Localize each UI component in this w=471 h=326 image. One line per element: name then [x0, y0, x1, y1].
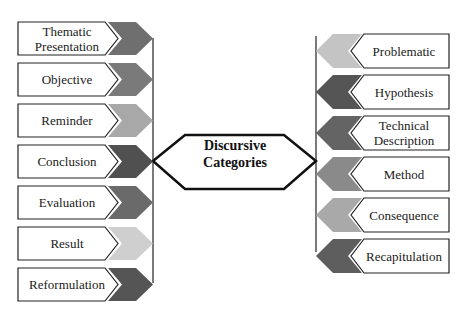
- left-item-objective: Objective: [19, 63, 115, 96]
- left-item-result: Result: [19, 227, 115, 260]
- left-item-evaluation: Evaluation: [19, 186, 115, 219]
- right-item-problematic: Problematic: [358, 34, 450, 68]
- center-label-line1: Discursive: [204, 138, 266, 153]
- left-item-reminder: Reminder: [19, 104, 115, 137]
- right-shapes: [316, 34, 449, 273]
- left-item-reformulation: Reformulation: [19, 268, 115, 301]
- right-item-technical-description: TechnicalDescription: [358, 116, 450, 150]
- right-item-hypothesis: Hypothesis: [358, 75, 450, 109]
- right-item-method: Method: [358, 157, 450, 191]
- right-item-recapitulation: Recapitulation: [358, 239, 450, 273]
- center-label: DiscursiveCategories: [180, 131, 290, 177]
- center-label-line2: Categories: [203, 155, 267, 170]
- left-item-conclusion: Conclusion: [19, 145, 115, 178]
- left-item-thematic-presentation: ThematicPresentation: [19, 22, 115, 55]
- right-item-consequence: Consequence: [358, 198, 450, 232]
